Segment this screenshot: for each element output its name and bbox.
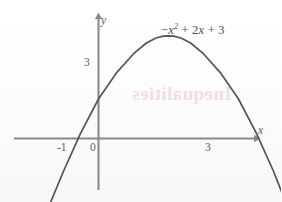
expression-exponent: 2: [174, 22, 178, 31]
expression-linear-coeff: + 2: [182, 23, 199, 37]
y-tick-label-3: 3: [84, 57, 90, 69]
y-axis-label: y: [101, 15, 106, 27]
x-tick-label-0: 0: [90, 142, 96, 154]
x-axis-label: x: [258, 125, 263, 137]
parabola-figure: Inequalities 3 -1 0 3 y x −x2 + 2x + 3: [0, 0, 281, 202]
x-tick-label-3: 3: [205, 142, 211, 154]
expression-linear-x: x: [199, 23, 205, 37]
expression-annotation: −x2 + 2x + 3: [161, 22, 225, 38]
expression-constant: + 3: [208, 23, 225, 37]
x-tick-label-minus-1: -1: [57, 142, 67, 154]
plot-canvas: [0, 0, 281, 202]
parabola-curve: [29, 36, 282, 202]
